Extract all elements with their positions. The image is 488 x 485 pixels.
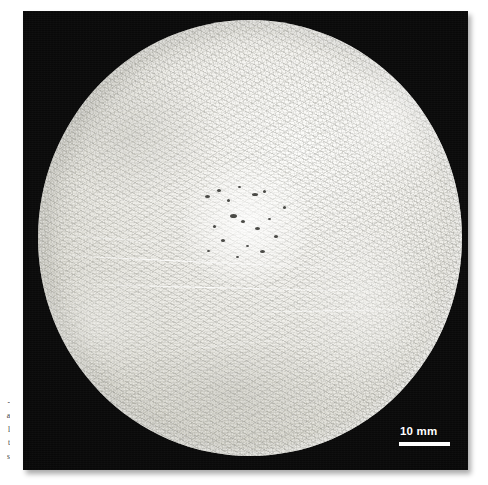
caption-line-5: s — [0, 450, 10, 463]
caption-line-3: l — [0, 423, 10, 436]
specimen-disc — [38, 20, 462, 456]
specimen-rim-shadow — [38, 20, 462, 456]
macrograph-photo-panel: 10 mm — [23, 11, 468, 470]
caption-line-2: a — [0, 409, 10, 422]
caption-line-1: - — [0, 396, 10, 409]
caption-text-fragment: - a l t s — [0, 396, 10, 463]
page-canvas: - a l t s — [0, 0, 488, 485]
scale-bar: 10 mm — [399, 425, 455, 446]
scale-bar-label: 10 mm — [399, 425, 455, 438]
scale-bar-line — [399, 442, 450, 446]
caption-line-4: t — [0, 436, 10, 449]
